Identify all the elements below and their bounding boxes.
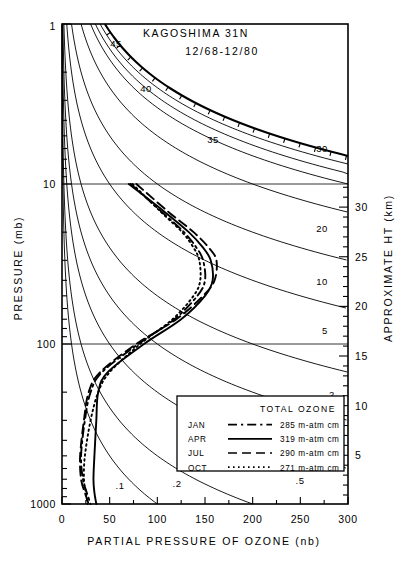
y-axis-label: PRESSURE (mb) [12, 216, 24, 320]
legend-value-apr: 319 m-atm cm [280, 435, 340, 444]
y-tick-label-100: 100 [37, 338, 56, 350]
contour-label-30: 30 [316, 143, 328, 154]
contour-2 [64, 24, 347, 372]
y-tick-label-10: 10 [43, 178, 56, 190]
contour-label-20: 20 [316, 223, 328, 234]
x-tick-label-0: 0 [59, 513, 65, 525]
reference-gridlines [62, 184, 348, 344]
chart-page: 050100150200250300110100100051015202530 … [0, 0, 406, 562]
contour-hatch-tick [128, 57, 131, 60]
contour-label-40: 40 [140, 83, 152, 94]
contour-label-35: 35 [207, 134, 219, 145]
ozone-profile-figure: 050100150200250300110100100051015202530 … [0, 0, 406, 562]
legend-value-jul: 290 m-atm cm [280, 449, 340, 458]
contour-label-p2: .2 [173, 478, 182, 489]
y2-tick-label-5: 5 [355, 449, 361, 461]
contour-label-p1: .1 [116, 480, 125, 491]
contour-hatch-tick [140, 68, 143, 71]
y2-tick-label-20: 20 [355, 300, 368, 312]
y2-axis-label: APPROXIMATE HT (km) [382, 194, 394, 342]
x-tick-label-50: 50 [103, 513, 116, 525]
x-tick-label-100: 100 [148, 513, 167, 525]
x-axis-label: PARTIAL PRESSURE OF OZONE (nb) [87, 535, 320, 547]
contour-label-10: 10 [316, 276, 328, 287]
contour-5 [67, 24, 346, 308]
contour-label-p5: .5 [296, 475, 305, 486]
x-tick-label-300: 300 [338, 513, 357, 525]
legend: TOTAL OZONE JAN285 m-atm cmAPR319 m-atm … [177, 396, 344, 473]
contour-hatch-tick [238, 123, 240, 127]
legend-month-apr: APR [188, 435, 207, 444]
y-tick-label-1000: 1000 [30, 498, 56, 510]
legend-month-oct: OCT [188, 464, 207, 473]
x-tick-label-150: 150 [195, 513, 214, 525]
y-tick-label-1: 1 [50, 20, 56, 32]
legend-value-jan: 285 m-atm cm [280, 421, 340, 430]
contour-hatch-tick [166, 87, 168, 91]
y2-tick-label-25: 25 [355, 251, 368, 263]
x-tick-label-200: 200 [243, 513, 262, 525]
contour-label-45: 45 [110, 38, 122, 49]
contour-hatch-tick [107, 32, 111, 35]
y2-tick-label-10: 10 [355, 400, 368, 412]
station-title: KAGOSHIMA 31N [143, 27, 249, 39]
y2-tick-label-30: 30 [355, 201, 368, 213]
legend-header: TOTAL OZONE [260, 404, 336, 414]
period-title: 12/68-12/80 [185, 45, 259, 57]
y2-tick-label-15: 15 [355, 350, 368, 362]
contour-label-5: 5 [322, 325, 328, 336]
contour-hatch-tick [152, 78, 155, 82]
contour-hatch-tick [180, 95, 182, 99]
legend-value-oct: 271 m-atm cm [280, 464, 340, 473]
legend-month-jul: JUL [188, 449, 204, 458]
x-tick-label-250: 250 [291, 513, 310, 525]
legend-month-jan: JAN [188, 421, 205, 430]
